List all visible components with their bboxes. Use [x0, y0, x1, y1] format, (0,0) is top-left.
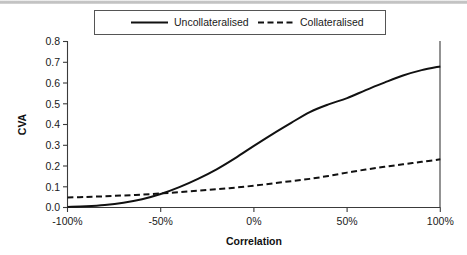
cva-vs-correlation-line-chart: 0.8 0.7 0.6 0.5 0.4 0.3 0.2 0.1 0.0 -100… [0, 0, 467, 255]
y-axis-ticks [63, 42, 68, 208]
y-tick-label: 0.8 [45, 35, 60, 47]
y-tick-label: 0.0 [45, 201, 60, 213]
y-axis-tick-labels: 0.8 0.7 0.6 0.5 0.4 0.3 0.2 0.1 0.0 [45, 35, 60, 213]
y-tick-label: 0.1 [45, 181, 60, 193]
series-line-uncollateralised [68, 66, 441, 206]
y-tick-label: 0.2 [45, 160, 60, 172]
legend-label-collateralised: Collateralised [300, 16, 364, 28]
x-axis-tick-labels: -100% -50% 0% 50% 100% [52, 215, 453, 227]
x-axis-title: Correlation [226, 235, 282, 247]
data-series-group [68, 66, 441, 206]
y-tick-label: 0.4 [45, 118, 60, 130]
y-axis-title: CVA [16, 113, 28, 135]
y-tick-label: 0.7 [45, 56, 60, 68]
y-tick-label: 0.5 [45, 98, 60, 110]
x-tick-label: 50% [337, 215, 358, 227]
chart-figure: 0.8 0.7 0.6 0.5 0.4 0.3 0.2 0.1 0.0 -100… [0, 0, 467, 255]
x-tick-label: -50% [148, 215, 173, 227]
x-axis-ticks [68, 208, 441, 213]
legend-label-uncollateralised: Uncollateralised [174, 16, 249, 28]
y-tick-label: 0.6 [45, 77, 60, 89]
chart-legend: Uncollateralised Collateralised [95, 11, 386, 35]
series-line-collateralised [68, 159, 441, 197]
x-tick-label: -100% [52, 215, 82, 227]
x-tick-label: 0% [246, 215, 261, 227]
plot-axes [67, 41, 441, 208]
x-tick-label: 100% [427, 215, 454, 227]
y-tick-label: 0.3 [45, 139, 60, 151]
